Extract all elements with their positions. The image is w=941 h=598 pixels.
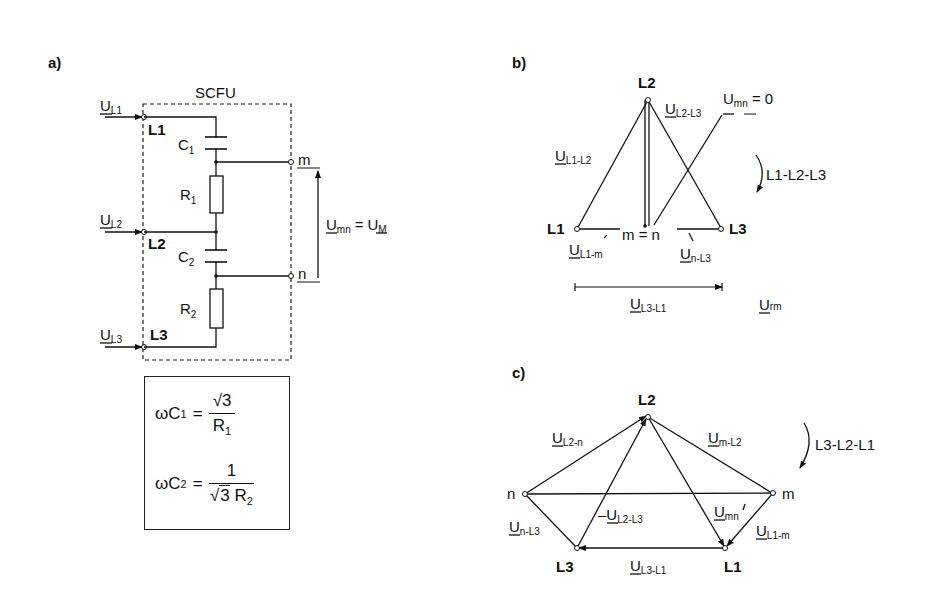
resistor-r2 xyxy=(210,289,223,328)
svg-text:Un-L3: Un-L3 xyxy=(509,518,540,537)
terminal-label-l3: L3 xyxy=(150,326,168,343)
node-m-equals-n: m = n xyxy=(622,226,660,243)
svg-text:Un-L3: Un-L3 xyxy=(680,245,711,264)
svg-text:UL3: UL3 xyxy=(100,326,122,345)
svg-text:Urm: Urm xyxy=(759,296,782,313)
capacitor-c2 xyxy=(205,250,227,262)
label-u-mn-zero: Umn = 0 xyxy=(723,90,773,114)
svg-text:UL2: UL2 xyxy=(100,211,122,230)
panel-c-label: c) xyxy=(512,364,525,381)
label-u-rm: Urm xyxy=(759,296,782,313)
svg-text:UL3-L1: UL3-L1 xyxy=(630,557,667,576)
label-c-u-m-l2: Um-L2 xyxy=(708,429,742,448)
scfu-title: SCFU xyxy=(195,84,236,101)
label-c1: C1 xyxy=(178,136,195,156)
svg-text:UL1-m: UL1-m xyxy=(569,241,603,260)
resistor-r1 xyxy=(210,176,223,213)
label-u-n-l3: Un-L3 xyxy=(680,245,711,264)
panel-b-phasor: b) L2 L1 L3 m = n UL1-L2 UL2-L3 Umn = 0 … xyxy=(512,54,826,314)
node-c-l3: L3 xyxy=(556,558,574,575)
node-l3: L3 xyxy=(729,220,747,237)
label-u-l2-l3: UL2-L3 xyxy=(665,100,702,119)
capacitor-c1 xyxy=(205,137,227,149)
measurement-label: Umn=UM xyxy=(326,216,387,235)
svg-text:UL3-L1: UL3-L1 xyxy=(630,295,667,314)
label-u-l3-l1: UL3-L1 xyxy=(630,295,667,314)
label-c-u-mn: Umn xyxy=(714,503,739,522)
svg-text:Umn=UM: Umn=UM xyxy=(326,216,387,235)
label-c-u-l2-n: UL2-n xyxy=(552,429,583,448)
node-l1: L1 xyxy=(547,220,565,237)
terminal-label-l1: L1 xyxy=(148,121,166,138)
svg-text:L3-L2-L1: L3-L2-L1 xyxy=(815,436,875,453)
label-c2: C2 xyxy=(178,248,195,268)
formula-box: ωC1 = √3R1 ωC2 = 1√3 R2 xyxy=(144,376,290,530)
label-c-u-n-l3: Un-L3 xyxy=(509,518,540,537)
formula-c2: ωC2 = 1√3 R2 xyxy=(155,461,254,507)
label-c-u-l3-l1: UL3-L1 xyxy=(630,557,667,576)
rotation-arrow-b: L1-L2-L3 xyxy=(756,155,826,192)
svg-text:–UL2-L3: –UL2-L3 xyxy=(598,506,643,525)
label-u-l1-l2: UL1-L2 xyxy=(555,147,592,166)
terminal-label-l2: L2 xyxy=(148,235,166,252)
node-c-l2: L2 xyxy=(638,391,656,408)
terminal-n xyxy=(289,274,294,279)
label-c-u-l1-m: UL1-m xyxy=(756,522,790,541)
svg-text:Umn = 0: Umn = 0 xyxy=(723,90,773,109)
panel-a-circuit: a) SCFU UL1 UL2 UL3 L1 L2 L3 xyxy=(48,54,387,360)
svg-text:UL1: UL1 xyxy=(100,97,122,116)
panel-a-label: a) xyxy=(48,54,61,71)
output-label-m: m xyxy=(298,151,311,168)
svg-text:L1-L2-L3: L1-L2-L3 xyxy=(766,166,826,183)
svg-text:UL1-m: UL1-m xyxy=(756,522,790,541)
panel-c-phasor: c) L2 n m L3 L1 UL2-n Um-L2 –UL2-L3 Umn … xyxy=(507,364,875,576)
output-label-n: n xyxy=(298,265,306,282)
node-l2: L2 xyxy=(638,74,656,91)
label-r1: R1 xyxy=(180,186,197,206)
diagram-canvas: a) SCFU UL1 UL2 UL3 L1 L2 L3 xyxy=(0,0,941,598)
node-c-l1: L1 xyxy=(724,558,742,575)
label-c-neg-u-l2-l3: –UL2-L3 xyxy=(598,506,643,525)
svg-text:UL2-L3: UL2-L3 xyxy=(665,100,702,119)
svg-text:UL2-n: UL2-n xyxy=(552,429,583,448)
svg-text:Um-L2: Um-L2 xyxy=(708,429,742,448)
svg-text:Umn: Umn xyxy=(714,503,739,522)
label-r2: R2 xyxy=(180,300,197,320)
label-u-l1-m: UL1-m xyxy=(569,241,603,260)
input-label-ul1: UL1 xyxy=(100,97,122,116)
terminal-m xyxy=(289,160,294,165)
node-c-n: n xyxy=(507,485,515,502)
svg-text:UL1-L2: UL1-L2 xyxy=(555,147,592,166)
input-label-ul3: UL3 xyxy=(100,326,122,345)
input-label-ul2: UL2 xyxy=(100,211,122,230)
node-c-m: m xyxy=(782,485,795,502)
panel-b-label: b) xyxy=(512,54,526,71)
rotation-arrow-c: L3-L2-L1 xyxy=(800,423,875,468)
formula-c1: ωC1 = √3R1 xyxy=(155,391,235,437)
